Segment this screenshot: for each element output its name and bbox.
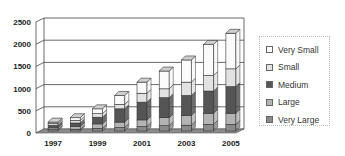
legend-label: Small [278, 62, 299, 72]
svg-text:2001: 2001 [133, 139, 151, 148]
svg-text:500: 500 [18, 107, 32, 116]
legend-swatch-very-small [266, 46, 273, 53]
svg-text:2500: 2500 [13, 18, 31, 27]
chart-legend: Very Small Small Medium Large Very Large [259, 36, 330, 126]
legend-swatch-large [266, 99, 273, 106]
bar-2004 [204, 40, 218, 131]
bar-2001 [137, 78, 151, 131]
bar-2005 [226, 29, 240, 131]
bar-1999 [93, 105, 107, 131]
legend-label: Medium [278, 80, 308, 90]
bar-2002 [159, 67, 173, 131]
legend-label: Very Small [278, 45, 319, 55]
svg-text:1000: 1000 [13, 85, 31, 94]
legend-swatch-very-large [266, 116, 273, 123]
svg-text:0: 0 [27, 129, 32, 138]
legend-label: Large [278, 97, 300, 107]
legend-item-very-small: Very Small [266, 41, 329, 59]
legend-item-very-large: Very Large [266, 111, 329, 129]
svg-text:2000: 2000 [13, 40, 31, 49]
bar-2000 [115, 91, 129, 131]
svg-text:2005: 2005 [222, 139, 240, 148]
legend-swatch-small [266, 64, 273, 71]
legend-item-large: Large [266, 94, 329, 112]
svg-text:2003: 2003 [178, 139, 196, 148]
bar-2003 [181, 56, 195, 131]
svg-text:1997: 1997 [44, 139, 62, 148]
legend-item-medium: Medium [266, 76, 329, 94]
legend-swatch-medium [266, 81, 273, 88]
svg-text:1999: 1999 [89, 139, 107, 148]
legend-item-small: Small [266, 59, 329, 77]
svg-text:1500: 1500 [13, 62, 31, 71]
legend-label: Very Large [278, 115, 319, 125]
bar-1998 [70, 114, 84, 131]
bar-1997 [48, 118, 62, 131]
